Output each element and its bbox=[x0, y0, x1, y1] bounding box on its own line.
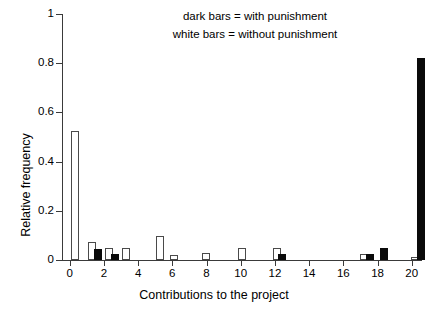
x-tick-label: 10 bbox=[226, 268, 256, 280]
x-tick-label: 2 bbox=[89, 268, 119, 280]
x-tick-label: 18 bbox=[363, 268, 393, 280]
x-tick-mark bbox=[241, 261, 242, 266]
y-tick-mark bbox=[56, 260, 62, 261]
x-tick-mark bbox=[207, 261, 208, 266]
bar-with-punishment bbox=[366, 254, 374, 260]
bar-with-punishment bbox=[94, 249, 102, 260]
y-tick-label: 0.6 bbox=[0, 106, 54, 118]
x-tick-mark bbox=[104, 261, 105, 266]
x-tick-mark bbox=[70, 261, 71, 266]
y-tick-label: 0 bbox=[0, 254, 54, 266]
x-tick-label: 0 bbox=[55, 268, 85, 280]
x-tick-label: 8 bbox=[192, 268, 222, 280]
bar-with-punishment bbox=[278, 254, 286, 260]
plot-area bbox=[62, 14, 422, 260]
x-axis-line bbox=[62, 260, 422, 261]
y-tick-label: 0.4 bbox=[0, 156, 54, 168]
x-tick-mark bbox=[138, 261, 139, 266]
x-tick-mark bbox=[172, 261, 173, 266]
x-tick-mark bbox=[309, 261, 310, 266]
bar-with-punishment bbox=[380, 248, 388, 260]
x-tick-mark bbox=[275, 261, 276, 266]
x-tick-label: 12 bbox=[260, 268, 290, 280]
chart-figure: dark bars = with punishment white bars =… bbox=[0, 0, 428, 316]
x-tick-label: 14 bbox=[294, 268, 324, 280]
bar-without-punishment bbox=[156, 236, 164, 260]
bar-without-punishment bbox=[202, 253, 210, 260]
y-tick-label: 1 bbox=[0, 8, 54, 20]
x-tick-label: 4 bbox=[123, 268, 153, 280]
bar-with-punishment bbox=[111, 254, 119, 260]
bar-without-punishment bbox=[238, 248, 246, 260]
x-tick-mark bbox=[378, 261, 379, 266]
bar-without-punishment bbox=[122, 248, 130, 260]
bar-with-punishment bbox=[417, 58, 425, 260]
x-tick-label: 16 bbox=[328, 268, 358, 280]
y-axis-label: Relative frequency bbox=[19, 105, 33, 265]
bar-without-punishment bbox=[170, 255, 178, 260]
y-tick-label: 0.8 bbox=[0, 57, 54, 69]
y-tick-label: 0.2 bbox=[0, 205, 54, 217]
x-tick-label: 6 bbox=[157, 268, 187, 280]
bar-without-punishment bbox=[71, 131, 79, 260]
x-tick-mark bbox=[343, 261, 344, 266]
x-tick-label: 20 bbox=[397, 268, 427, 280]
x-axis-label: Contributions to the project bbox=[0, 288, 428, 302]
x-tick-mark bbox=[412, 261, 413, 266]
